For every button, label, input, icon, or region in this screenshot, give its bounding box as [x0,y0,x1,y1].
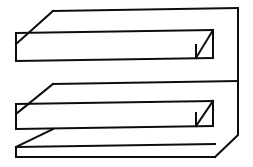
impossible-figure-canvas [0,0,253,167]
top-slab-fill [16,8,238,61]
impossible-figure-svg [0,0,253,167]
